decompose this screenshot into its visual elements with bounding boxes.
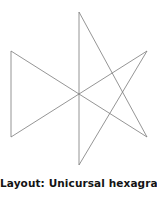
unicursal-path [11, 12, 147, 165]
unicursal-hexagram-diagram [0, 0, 157, 172]
figure-caption: Layout: Unicursal hexagram [0, 176, 157, 190]
figure-panel: Layout: Unicursal hexagram [0, 0, 157, 197]
